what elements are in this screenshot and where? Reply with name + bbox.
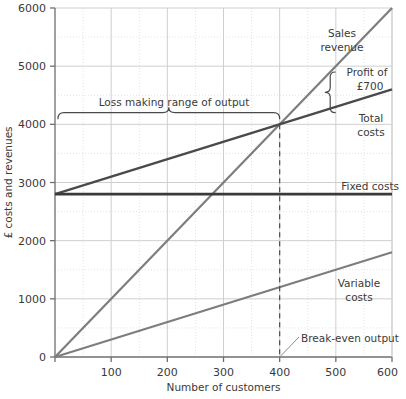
chart-canvas: 0100020003000400050006000100200300400500… (0, 0, 406, 399)
total-costs-label-line1: Total (358, 112, 384, 124)
total-costs-label-line2: costs (357, 126, 384, 138)
x-axis-title: Number of customers (167, 381, 281, 393)
y-axis-tick-label: 1000 (18, 293, 46, 306)
fixed-costs-label: Fixed costs (341, 180, 399, 192)
x-axis-tick-label: 400 (269, 366, 290, 379)
series-label-total-costs: Total costs (357, 112, 384, 138)
y-axis-tick-label: 4000 (18, 118, 46, 131)
x-axis-tick-label: 100 (101, 366, 122, 379)
loss-making-range-label: Loss making range of output (99, 96, 250, 108)
profit-annotation: Profit of £700 (347, 66, 388, 92)
loss-making-range-brace (58, 108, 280, 119)
y-axis-tick-label: 6000 (18, 2, 46, 15)
profit-label-line2: £700 (357, 80, 384, 92)
x-axis-tick-label: 200 (157, 366, 178, 379)
variable-costs-label-line1: Variable (338, 277, 381, 289)
break-even-chart: 0100020003000400050006000100200300400500… (0, 0, 406, 399)
y-axis-tick-label: 2000 (18, 235, 46, 248)
profit-label-line1: Profit of (347, 66, 388, 78)
x-axis-tick-label: 300 (213, 366, 234, 379)
y-axis-tick-label: 3000 (18, 177, 46, 190)
x-axis-tick-label: 600 (377, 366, 398, 379)
y-axis-tick-label: 5000 (18, 60, 46, 73)
y-axis-title: £ costs and revenues (2, 126, 14, 238)
y-axis-tick-label: 0 (39, 351, 46, 364)
sales-revenue-label-line1: Sales (328, 27, 356, 39)
variable-costs-label-line2: costs (345, 291, 372, 303)
break-even-output-label: Break-even output (301, 332, 399, 344)
break-even-leader-line (281, 337, 299, 356)
sales-revenue-label-line2: revenue (321, 41, 364, 53)
series-label-sales-revenue: Sales revenue (321, 27, 364, 53)
annotations-layer (58, 72, 335, 357)
x-axis-tick-label: 500 (325, 366, 346, 379)
